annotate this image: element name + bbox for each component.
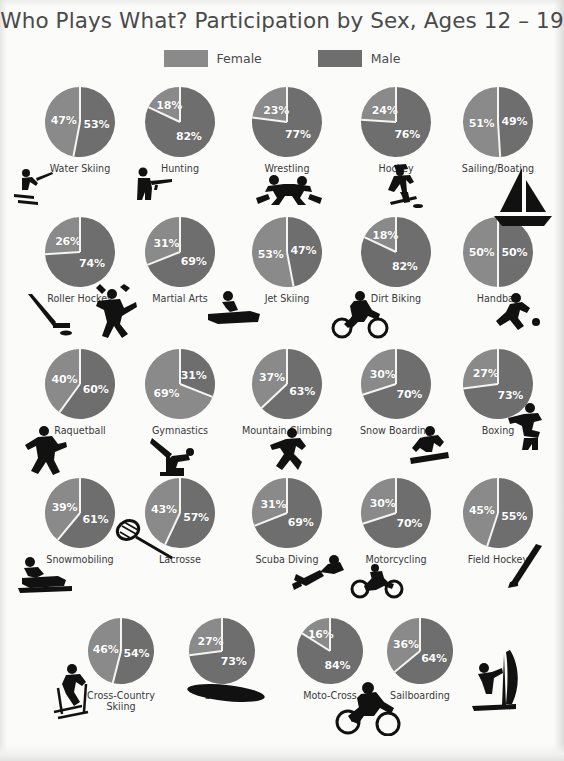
legend-label-male: Male	[371, 51, 401, 66]
percent-female: 31%	[154, 236, 180, 249]
percent-female: 16%	[308, 628, 334, 641]
pie-slices	[360, 86, 432, 158]
scuba-diving-icon	[290, 548, 348, 594]
percent-male: 54%	[124, 646, 150, 659]
percent-male: 69%	[181, 255, 207, 268]
snowmobile-icon	[14, 556, 76, 596]
percent-male: 49%	[502, 115, 528, 128]
page-edge-left	[0, 0, 7, 761]
percent-male: 60%	[83, 383, 109, 396]
percent-female: 24%	[372, 104, 398, 117]
percent-male: 53%	[84, 117, 110, 130]
roller-hockey-icon	[20, 292, 76, 336]
lacrosse-icon	[114, 518, 178, 562]
percent-female: 53%	[258, 247, 284, 260]
percent-male: 76%	[394, 127, 420, 140]
motorcycle-icon	[348, 560, 406, 600]
moto-cross-icon	[334, 680, 402, 736]
mountain-climbing-icon	[268, 426, 312, 480]
gymnastics-icon	[150, 432, 208, 476]
page-edge-right	[554, 0, 564, 761]
percent-male: 64%	[421, 651, 447, 664]
percent-female: 26%	[55, 234, 81, 247]
boxing-icon	[504, 402, 552, 452]
percent-female: 23%	[263, 103, 289, 116]
percent-female: 18%	[156, 98, 182, 111]
jet-ski-icon	[204, 290, 266, 328]
percent-female: 45%	[469, 504, 495, 517]
percent-male: 82%	[176, 129, 202, 142]
percent-male: 82%	[392, 259, 418, 272]
pie-slices	[360, 348, 432, 420]
pie-slices	[251, 86, 323, 158]
percent-male: 77%	[285, 128, 311, 141]
percent-male: 61%	[83, 512, 109, 525]
percent-male: 57%	[183, 510, 209, 523]
surfboard-icon	[186, 678, 266, 708]
legend-entry-female: Female	[164, 50, 262, 67]
legend-label-female: Female	[217, 51, 262, 66]
percent-female: 69%	[154, 387, 180, 400]
percent-male: 31%	[181, 368, 207, 381]
handball-icon	[486, 292, 542, 334]
hunting-icon	[130, 166, 176, 204]
percent-female: 47%	[51, 114, 77, 127]
martial-arts-icon	[94, 282, 138, 342]
percent-female: 27%	[197, 634, 223, 647]
legend: Female Male	[0, 50, 564, 67]
sailboard-icon	[466, 648, 522, 718]
pie-slices	[360, 216, 432, 288]
snowboarding-icon	[404, 424, 454, 474]
page-title: Who Plays What? Participation by Sex, Ag…	[0, 8, 564, 33]
percent-male: 55%	[501, 509, 527, 522]
page-edge-top	[0, 0, 564, 6]
percent-female: 39%	[52, 501, 78, 514]
percent-male: 74%	[79, 257, 105, 270]
percent-male: 69%	[288, 516, 314, 529]
percent-male: 84%	[325, 658, 351, 671]
legend-entry-male: Male	[318, 50, 401, 67]
percent-male: 63%	[289, 384, 315, 397]
water-skiing-icon	[12, 166, 58, 212]
legend-swatch-male	[318, 50, 362, 67]
cross-country-ski-icon	[52, 662, 108, 720]
percent-male: 47%	[291, 244, 317, 257]
pie-slices	[144, 86, 216, 158]
dirt-bike-icon	[330, 288, 390, 340]
percent-male: 70%	[396, 387, 422, 400]
percent-female: 36%	[393, 638, 419, 651]
percent-male: 50%	[502, 246, 528, 259]
percent-female: 46%	[93, 643, 119, 656]
pie-slices	[251, 477, 323, 549]
hockey-icon	[380, 162, 426, 210]
percent-male: 70%	[396, 516, 422, 529]
percent-female: 18%	[372, 228, 398, 241]
pie-slices	[188, 617, 256, 685]
legend-swatch-female	[164, 50, 208, 67]
percent-female: 31%	[261, 497, 287, 510]
raquetball-icon	[22, 424, 70, 478]
percent-female: 37%	[259, 371, 285, 384]
wrestling-icon	[252, 172, 326, 206]
percent-female: 50%	[469, 246, 495, 259]
sailboat-icon	[490, 166, 556, 232]
percent-male: 73%	[497, 388, 523, 401]
infographic-page: Who Plays What? Participation by Sex, Ag…	[0, 0, 564, 761]
percent-female: 27%	[473, 367, 499, 380]
pie-slices	[44, 216, 116, 288]
percent-female: 40%	[51, 372, 77, 385]
percent-male: 73%	[221, 655, 247, 668]
field-hockey-icon	[496, 542, 548, 590]
percent-female: 30%	[370, 368, 396, 381]
percent-female: 30%	[370, 497, 396, 510]
percent-female: 43%	[151, 503, 177, 516]
pie-slices	[144, 348, 216, 420]
pie-slices	[360, 477, 432, 549]
pie-slices	[144, 216, 216, 288]
percent-female: 51%	[469, 116, 495, 129]
